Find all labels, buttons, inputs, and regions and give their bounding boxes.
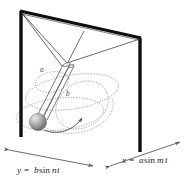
x-axis-equation-group: x = a sin m t: [121, 155, 168, 165]
x-axis-equation-time: t: [165, 155, 168, 165]
x-axis-equation-frequency: m: [157, 155, 164, 165]
x-axis-equation-variable: x: [121, 155, 127, 165]
pendulum-figure: a b y = b sin n t x = a sin m t: [0, 0, 189, 184]
y-axis-equation-group: y = b sin n t: [16, 165, 60, 175]
pendulum-bob: [29, 113, 46, 130]
pendulum-diagram-svg: a b y = b sin n t x = a sin m t: [0, 0, 189, 184]
y-axis-arrow: [9, 150, 93, 166]
amplitude-label-b: b: [66, 89, 70, 98]
orbit-ellipse-lower: [15, 93, 106, 134]
x-axis-equation-equals: =: [129, 155, 134, 165]
y-axis-equation-equals: =: [24, 165, 29, 175]
y-axis-equation-function: sin: [39, 165, 50, 175]
y-axis-equation-time: t: [57, 165, 60, 175]
frame-top-beam: [20, 11, 141, 38]
suspension-lines-group: [21, 12, 140, 66]
orbit-ellipse-tilted: [46, 71, 117, 139]
rod-inner-right: [47, 66, 74, 120]
y-axis-equation-variable: y: [16, 165, 22, 175]
x-axis-equation-function: sin: [144, 155, 155, 165]
amplitude-label-a: a: [40, 65, 44, 74]
